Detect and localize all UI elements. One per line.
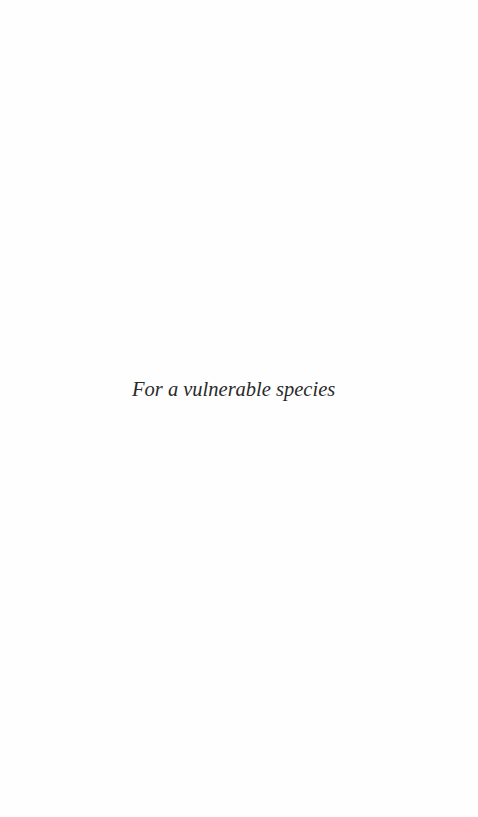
dedication-page: For a vulnerable species	[0, 0, 478, 817]
dedication-text: For a vulnerable species	[132, 377, 335, 401]
